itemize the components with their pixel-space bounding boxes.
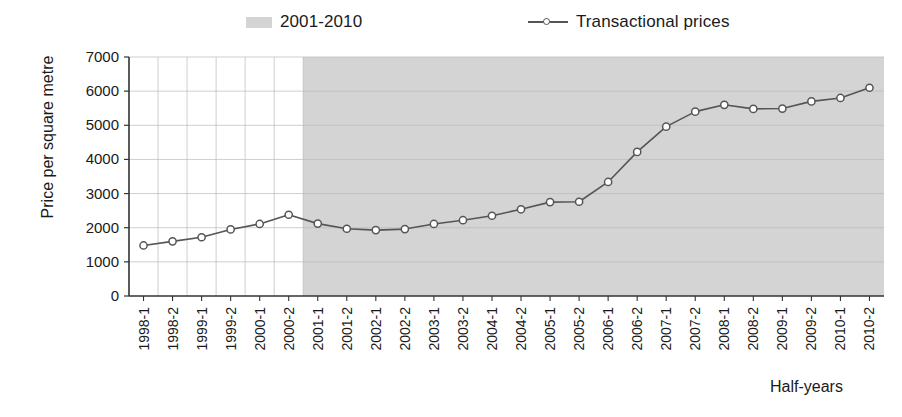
x-axis-tick-label: 2004-1: [484, 307, 500, 351]
y-axis-tick-label: 3000: [86, 185, 119, 202]
x-axis-tick-label: 2003-2: [455, 307, 471, 351]
chart-container: 010002000300040005000600070001998-11998-…: [0, 0, 902, 417]
data-point-marker[interactable]: [750, 105, 757, 112]
data-point-marker[interactable]: [692, 108, 699, 115]
data-point-marker[interactable]: [169, 238, 176, 245]
x-axis-title: Half-years: [770, 378, 843, 396]
x-axis-tick-label: 1998-2: [165, 307, 181, 351]
data-point-marker[interactable]: [256, 220, 263, 227]
y-axis-tick-label: 2000: [86, 219, 119, 236]
data-point-marker[interactable]: [227, 226, 234, 233]
x-axis-tick-label: 2002-2: [397, 307, 413, 351]
x-axis-tick-label: 2002-1: [368, 307, 384, 351]
x-axis-tick-label: 2005-1: [542, 307, 558, 351]
data-point-marker[interactable]: [372, 227, 379, 234]
x-axis-tick-label: 1999-1: [194, 307, 210, 351]
x-axis-tick-label: 2009-2: [803, 307, 819, 351]
y-axis-tick-label: 6000: [86, 82, 119, 99]
y-axis-tick-label: 1000: [86, 253, 119, 270]
y-axis-title: Price per square metre: [39, 27, 57, 247]
data-point-marker[interactable]: [546, 199, 553, 206]
x-axis-tick-label: 1998-1: [136, 307, 152, 351]
data-point-marker[interactable]: [488, 212, 495, 219]
x-axis-tick-label: 1999-2: [223, 307, 239, 351]
data-point-marker[interactable]: [401, 225, 408, 232]
x-axis-tick-label: 2005-2: [571, 307, 587, 351]
x-axis-tick-label: 2004-2: [513, 307, 529, 351]
x-axis-tick-label: 2010-1: [832, 307, 848, 351]
x-axis-tick-label: 2001-1: [310, 307, 326, 351]
data-point-marker[interactable]: [837, 94, 844, 101]
x-axis-tick-label: 2001-2: [339, 307, 355, 351]
data-point-marker[interactable]: [866, 84, 873, 91]
x-axis-tick-label: 2006-2: [629, 307, 645, 351]
y-axis-tick-label: 5000: [86, 116, 119, 133]
x-axis-tick-label: 2006-1: [600, 307, 616, 351]
data-point-marker[interactable]: [575, 198, 582, 205]
line-chart: 010002000300040005000600070001998-11998-…: [0, 0, 902, 417]
data-point-marker[interactable]: [779, 105, 786, 112]
data-point-marker[interactable]: [314, 220, 321, 227]
data-point-marker[interactable]: [634, 148, 641, 155]
x-axis-tick-label: 2008-2: [745, 307, 761, 351]
data-point-marker[interactable]: [459, 217, 466, 224]
y-axis-tick-label: 4000: [86, 150, 119, 167]
data-point-marker[interactable]: [430, 220, 437, 227]
data-point-marker[interactable]: [198, 234, 205, 241]
x-axis-tick-label: 2008-1: [716, 307, 732, 351]
x-axis-tick-label: 2009-1: [774, 307, 790, 351]
x-axis-tick-label: 2010-2: [861, 307, 877, 351]
data-point-marker[interactable]: [343, 225, 350, 232]
x-axis-tick-label: 2000-2: [281, 307, 297, 351]
x-axis-tick-label: 2007-1: [658, 307, 674, 351]
x-axis-tick-label: 2003-1: [426, 307, 442, 351]
data-point-marker[interactable]: [285, 211, 292, 218]
data-point-marker[interactable]: [517, 206, 524, 213]
x-axis-tick-label: 2007-2: [687, 307, 703, 351]
data-point-marker[interactable]: [808, 98, 815, 105]
data-point-marker[interactable]: [140, 242, 147, 249]
data-point-marker[interactable]: [605, 178, 612, 185]
x-axis-tick-label: 2000-1: [252, 307, 268, 351]
y-axis-tick-label: 7000: [86, 48, 119, 65]
shaded-band: [303, 57, 884, 296]
y-axis-tick-label: 0: [111, 287, 119, 304]
data-point-marker[interactable]: [663, 123, 670, 130]
data-point-marker[interactable]: [721, 101, 728, 108]
